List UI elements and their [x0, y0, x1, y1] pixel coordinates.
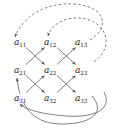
- node-a31-sub: 31: [19, 98, 26, 104]
- node-a13-base: a: [75, 37, 80, 47]
- node-a21: a21: [14, 66, 27, 75]
- node-a33-sub: 33: [80, 98, 87, 104]
- node-a22-base: a: [44, 65, 49, 75]
- node-a12: a12: [44, 38, 57, 47]
- wrap-arcs-top: [15, 4, 106, 62]
- node-a32-sub: 32: [49, 98, 56, 104]
- matrix-order-diagram: a11 a12 a13 a21 a22 a23 a31 a32 a33: [0, 0, 124, 132]
- node-a33-base: a: [75, 93, 80, 103]
- node-a31: a31: [14, 94, 27, 103]
- node-a33: a33: [75, 94, 88, 103]
- node-a22-sub: 22: [49, 70, 56, 76]
- node-a32: a32: [44, 94, 57, 103]
- node-a21-base: a: [14, 65, 19, 75]
- node-a31-base: a: [14, 93, 19, 103]
- node-a13: a13: [75, 38, 88, 47]
- node-a23-base: a: [75, 65, 80, 75]
- arc-a13-to-a11: [15, 4, 103, 40]
- node-a23-sub: 23: [80, 70, 87, 76]
- node-a21-sub: 21: [19, 70, 26, 76]
- node-a11-base: a: [14, 37, 19, 47]
- node-a23: a23: [75, 66, 88, 75]
- node-a13-sub: 13: [80, 42, 87, 48]
- arc-a33-to-a31: [20, 92, 106, 116]
- node-a22: a22: [44, 66, 57, 75]
- node-a12-sub: 12: [49, 42, 56, 48]
- node-a11: a11: [14, 38, 27, 47]
- wrap-arcs-bottom: [17, 78, 106, 124]
- node-a32-base: a: [44, 93, 49, 103]
- node-a11-sub: 11: [19, 42, 26, 48]
- node-a12-base: a: [44, 37, 49, 47]
